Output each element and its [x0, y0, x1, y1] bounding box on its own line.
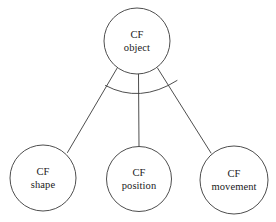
- edge-cf-object-to-cf-position: [139, 74, 140, 147]
- diagram-graphics: [0, 0, 276, 222]
- node-circle-cf-position[interactable]: [107, 147, 172, 212]
- node-circle-cf-movement[interactable]: [200, 146, 268, 214]
- edge-group: [68, 68, 212, 154]
- node-circle-cf-object[interactable]: [104, 8, 170, 74]
- edge-cf-object-to-cf-movement: [158, 68, 212, 153]
- diagram-canvas: CF object CF shape CF position CF moveme…: [0, 0, 276, 222]
- node-circle-cf-shape[interactable]: [10, 145, 76, 211]
- edge-cf-object-to-cf-shape: [68, 68, 118, 153]
